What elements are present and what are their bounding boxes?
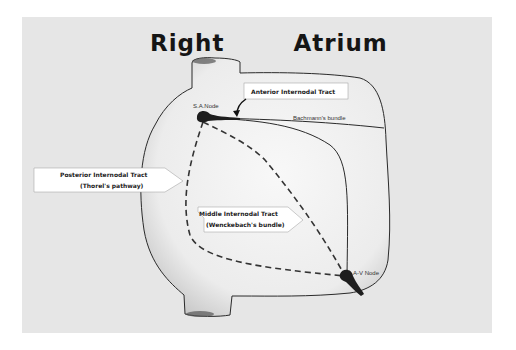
page-title: Right Atrium (150, 30, 388, 56)
middle-tract-label: Middle Internodal Tract (199, 210, 278, 217)
posterior-tract-label: Posterior Internodal Tract (60, 171, 147, 178)
sa-node-label: S.A.Node (193, 103, 219, 109)
av-node-label: A-V Node (353, 270, 379, 276)
posterior-tract-sublabel: (Thorel's pathway) (80, 182, 143, 189)
ivc-opening (186, 311, 214, 317)
middle-tract-sublabel: (Wenckebach's bundle) (206, 221, 285, 228)
bachmann-bundle-label: Bachmann's bundle (293, 115, 346, 121)
svc-opening (192, 58, 216, 64)
anterior-tract-label: Anterior Internodal Tract (251, 88, 335, 95)
